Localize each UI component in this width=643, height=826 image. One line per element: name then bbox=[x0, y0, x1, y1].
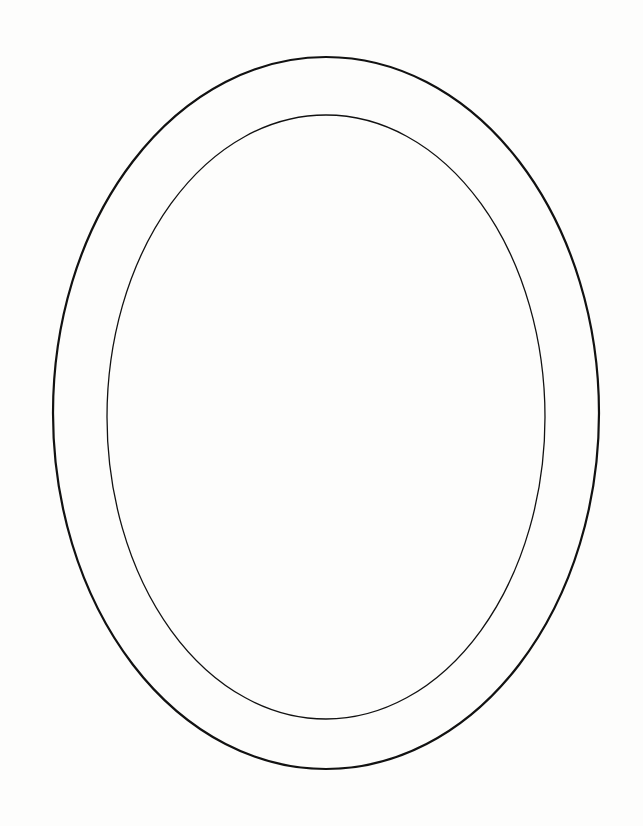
paper-background bbox=[0, 0, 643, 826]
diagram-svg bbox=[0, 0, 643, 826]
oval-frame-diagram bbox=[0, 0, 643, 826]
